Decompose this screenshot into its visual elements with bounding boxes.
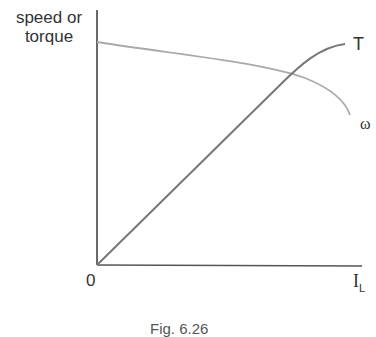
y-axis-label: speed or torque (4, 8, 94, 46)
speed-curve (97, 42, 350, 115)
torque-label: T (353, 34, 364, 55)
y-axis-label-line1: speed or (4, 8, 94, 27)
figure-caption: Fig. 6.26 (150, 320, 208, 337)
y-axis-label-line2: torque (4, 27, 94, 46)
torque-curve (97, 44, 345, 265)
origin-label: 0 (86, 271, 95, 291)
x-axis-label-sub: L (359, 282, 365, 294)
x-axis-label: IL (353, 271, 365, 294)
x-axis (97, 265, 362, 266)
speed-label: ω (360, 115, 371, 133)
